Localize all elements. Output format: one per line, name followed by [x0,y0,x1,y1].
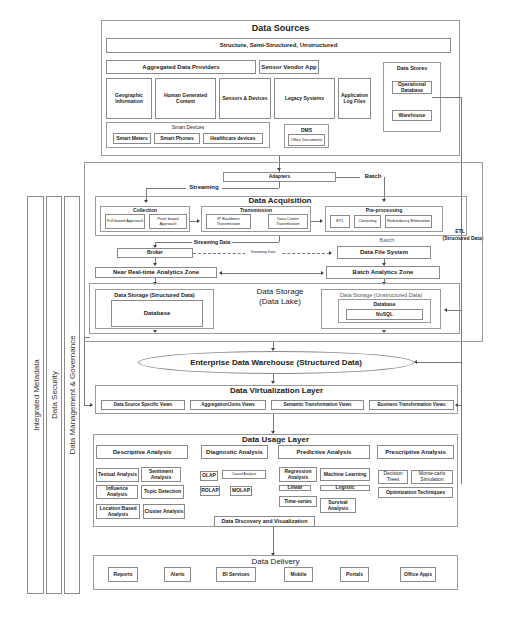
legacy-systems-box: Legacy Systems [274,78,335,119]
arrow-down-icon [153,330,157,333]
pull-based-box: Pull based Approach [105,214,145,229]
data-stores-title: Data Stores [383,65,441,71]
unstructured-storage-title: Data Storage (Unstructured Data) [321,292,441,298]
rolap-box: ROLAP [200,486,220,496]
adapters-box: Adapters [223,172,336,182]
regression-analysis-box: Regression Analysis [279,467,317,482]
preprocessing-title: Pre-processing [325,207,443,213]
integrated-metadata-bar: Integrated Metadata [27,196,44,594]
nosql-box: NoSQL [346,309,423,320]
molap-box: MOLAP [230,486,252,496]
logistic-box: Logistic [320,485,370,491]
warehouse-box: Warehouse [392,110,432,121]
streaming-label: Streaming [186,184,222,190]
data-acquisition-title: Data Acquisition [220,196,340,205]
data-storage-title: Data Storage [225,287,335,296]
decision-trees-box: Decision Trees [378,470,408,484]
view-semantic-transformation: Semantic Transformation Views [271,400,364,410]
human-content-box: Human Generated Content [155,78,216,119]
integrated-metadata-label: Integrated Metadata [31,359,40,431]
view-data-source-specific: Data Source Specific Views [101,400,185,410]
etl-connector [432,97,461,98]
delivery-portals: Portals [340,567,369,582]
redundancy-box: Redundancy Elimination [385,215,432,228]
cluster-analysis-box: Cluster Analysis [143,504,185,519]
connector [273,414,274,432]
data-governance-label: Data Management & Governance [68,335,77,454]
connector [84,337,85,405]
sentiment-analysis-box: Sentiment Analysis [141,467,181,482]
delivery-office-apps: Office Apps [400,567,436,582]
arrow-right-icon [197,219,200,223]
streaming-data-label: Streaming Data [192,239,232,245]
healthcare-devices-box: Healthcare devices [203,133,263,144]
enterprise-data-warehouse: Enterprise Data Warehouse (Structured Da… [138,351,414,374]
optimization-techniques-box: Optimization Techniques [378,487,453,498]
connector [279,236,280,242]
batch-label: Batch [360,173,386,179]
dms-title: DMS [284,127,329,133]
aggregated-providers-box: Aggregated Data Providers [106,60,256,74]
predictive-analysis-box: Predictive Analysis [278,445,370,459]
monte-carlo-box: Monte-carlo Simulation [411,470,453,484]
ip-backbone-box: IP Backbone Transmission [206,214,251,229]
data-security-label: Data Security [50,371,59,419]
transmission-title: Transmission [201,207,311,213]
time-series-box: Time-series [279,496,317,507]
sensor-vendor-app-box: Sensor Vendor App [259,60,319,74]
nosql-db-title: Database [338,301,431,307]
delivery-bi-services: BI Services [216,567,256,582]
application-log-files-box: Application Log Files [338,78,371,119]
linear-box: Linear [279,485,311,491]
connector [279,182,280,188]
influence-analysis-box: Influence Analysis [96,485,138,499]
arrow-left-icon [444,308,447,312]
data-discovery-box: Data Discovery and Visualization [214,516,315,527]
sensors-devices-box: Sensors & Devices [219,78,271,119]
smart-meters-box: Smart Meters [113,133,151,144]
delivery-mobile: Mobile [284,567,313,582]
arrow-right-icon [321,271,324,275]
geographic-info-box: Geographic Information [106,78,152,119]
operational-database-box: Operational Database [392,81,432,94]
delivery-reports: Reports [108,567,138,582]
location-based-analysis-box: Location Based Analysis [96,504,140,519]
database-box: Database [111,300,203,327]
arrow-down-icon [153,263,157,266]
broker-box: Broker [117,248,193,258]
data-virtualization-title: Data Virtualization Layer [95,386,458,395]
collection-title: Collection [100,207,190,213]
etl-connector [458,405,461,406]
data-sources-title: Data Sources [101,23,460,33]
cleansing-box: Cleansing [354,215,381,228]
push-based-box: Push based Approach [149,214,187,229]
data-storage-subtitle: (Data Lake) [225,297,335,306]
data-governance-bar: Data Management & Governance [64,196,80,594]
smart-devices-title: Smart Devices [106,124,270,130]
etl-box: ETL [330,215,350,228]
view-aggregation-joins: Aggregation/Joins Views [190,400,266,410]
arrow-left-icon [219,271,222,275]
diagnostic-analysis-box: Diagnostic Analysis [201,445,268,459]
descriptive-analysis-box: Descriptive Analysis [96,445,188,459]
arrow-left-icon [414,360,417,364]
connector [273,527,274,553]
data-centre-box: Data Centre Transmission [268,214,308,229]
arrow-left-icon [455,403,458,407]
data-delivery-title: Data Delivery [93,557,458,566]
office-documents-box: Office Documents [288,134,325,146]
delivery-alerts: Alerts [164,567,191,582]
data-file-system-box: Data File System [337,246,431,259]
arrow-right-icon [320,219,323,223]
topic-detection-box: Topic Detection [141,485,184,499]
survival-analysis-box: Survival Analysis [320,498,356,513]
data-security-bar: Data Security [46,196,62,594]
connector [222,273,323,274]
olap-box: OLAP [200,471,218,481]
arrow-down-icon [382,330,386,333]
data-usage-title: Data Usage Layer [93,435,458,444]
etl-connector [417,362,461,363]
streaming-data-small-label: Streaming Data [245,250,281,254]
batch-analytics-zone-box: Batch Analytics Zone [326,266,440,279]
smart-phones-box: Smart Phones [154,133,200,144]
